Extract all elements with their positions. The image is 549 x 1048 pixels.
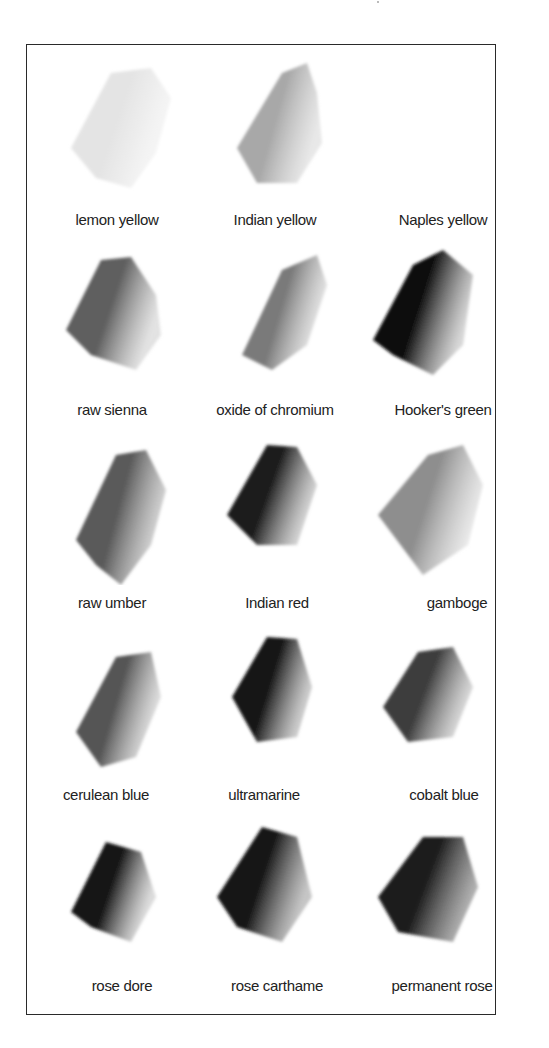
swatch-label: Indian yellow: [190, 211, 360, 228]
paint-swatch-image: [353, 435, 509, 585]
paint-swatch-image: [197, 627, 353, 777]
paint-swatch-image: [353, 245, 509, 395]
swatch-label: raw umber: [27, 594, 197, 611]
swatch-label: rose carthame: [192, 977, 362, 994]
paint-swatch-image: [197, 435, 353, 585]
paint-swatch-image: [41, 817, 197, 967]
paint-swatch-image: [353, 817, 509, 967]
paint-swatch-image: [41, 627, 197, 777]
swatch-label: cobalt blue: [359, 786, 529, 803]
print-speck: [377, 1, 379, 3]
swatch-label: Naples yellow: [358, 211, 528, 228]
paint-swatch-image: [41, 245, 197, 395]
swatch-label: ultramarine: [179, 786, 349, 803]
swatch-label: raw sienna: [27, 401, 197, 418]
swatch-label: lemon yellow: [32, 211, 202, 228]
swatch-label: cerulean blue: [21, 786, 191, 803]
swatch-label: permanent rose: [357, 977, 527, 994]
swatch-label: oxide of chromium: [190, 401, 360, 418]
swatch-label: rose dore: [37, 977, 207, 994]
swatch-chart-frame: lemon yellowIndian yellowNaples yellowra…: [26, 44, 496, 1015]
paint-swatch-image: [41, 53, 197, 203]
paint-swatch-image: [353, 627, 509, 777]
swatch-label: gamboge: [372, 594, 542, 611]
paint-swatch-image: [41, 435, 197, 585]
paint-swatch-image: [197, 53, 353, 203]
paint-swatch-image: [353, 53, 509, 203]
swatch-label: Indian red: [192, 594, 362, 611]
paint-swatch-image: [197, 817, 353, 967]
swatch-label: Hooker's green: [358, 401, 528, 418]
paint-swatch-image: [197, 245, 353, 395]
